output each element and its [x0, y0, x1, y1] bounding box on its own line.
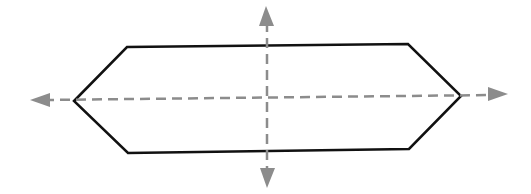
- arrow-down-icon: [260, 168, 275, 188]
- arrow-up-icon: [259, 6, 274, 26]
- diagram-canvas: [0, 0, 531, 194]
- hexagon-diagram: [0, 0, 531, 194]
- arrow-left-icon: [30, 93, 50, 107]
- horizontal-symmetry-axis: [44, 95, 494, 100]
- arrow-right-icon: [488, 87, 508, 101]
